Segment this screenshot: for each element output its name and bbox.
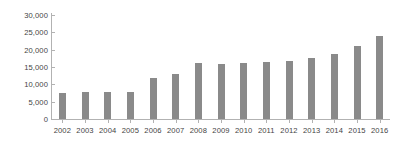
x-tick-mark [62, 120, 63, 123]
bar [218, 64, 225, 119]
bar [240, 63, 247, 120]
x-tick-mark [108, 120, 109, 123]
bar [150, 78, 157, 119]
bar [195, 63, 202, 120]
bar-chart-figure: 05,00010,00015,00020,00025,00030,000 200… [0, 0, 397, 150]
x-tick-label: 2008 [190, 126, 207, 135]
bar [354, 46, 361, 119]
bar [263, 62, 270, 119]
x-tick-mark [176, 120, 177, 123]
x-tick-mark [153, 120, 154, 123]
bar [308, 58, 315, 119]
x-tick-mark [130, 120, 131, 123]
x-tick-mark [334, 120, 335, 123]
x-tick-label: 2010 [235, 126, 252, 135]
y-tick-label: 15,000 [24, 63, 48, 72]
x-tick-mark [289, 120, 290, 123]
x-tick-label: 2015 [348, 126, 365, 135]
y-tick-label: 5,000 [28, 97, 48, 106]
x-tick-label: 2011 [258, 126, 275, 135]
x-tick-mark [380, 120, 381, 123]
y-tick-label: 25,000 [24, 28, 48, 37]
bar [59, 93, 66, 119]
y-tick-label: 30,000 [24, 11, 48, 20]
plot-area [51, 15, 391, 119]
x-tick-mark [312, 120, 313, 123]
x-tick-label: 2007 [167, 126, 184, 135]
x-tick-label: 2014 [326, 126, 343, 135]
x-tick-mark [85, 120, 86, 123]
x-tick-label: 2005 [122, 126, 139, 135]
x-tick-label: 2012 [280, 126, 297, 135]
bar [376, 36, 383, 119]
x-tick-label: 2004 [99, 126, 116, 135]
bar [127, 92, 134, 119]
bar [286, 61, 293, 119]
x-tick-mark [198, 120, 199, 123]
bar [331, 54, 338, 119]
x-tick-label: 2013 [303, 126, 320, 135]
bar [82, 92, 89, 119]
y-tick-label: 10,000 [24, 80, 48, 89]
x-tick-label: 2003 [76, 126, 93, 135]
y-tick-label: 20,000 [24, 45, 48, 54]
x-tick-label: 2009 [212, 126, 229, 135]
bar [104, 92, 111, 119]
y-tick-mark [51, 119, 55, 120]
x-tick-mark [244, 120, 245, 123]
x-tick-label: 2002 [54, 126, 71, 135]
x-tick-mark [266, 120, 267, 123]
y-tick-label: 0 [44, 115, 48, 124]
x-tick-mark [357, 120, 358, 123]
x-tick-label: 2016 [371, 126, 388, 135]
x-tick-mark [221, 120, 222, 123]
bar [172, 74, 179, 119]
x-tick-label: 2006 [144, 126, 161, 135]
